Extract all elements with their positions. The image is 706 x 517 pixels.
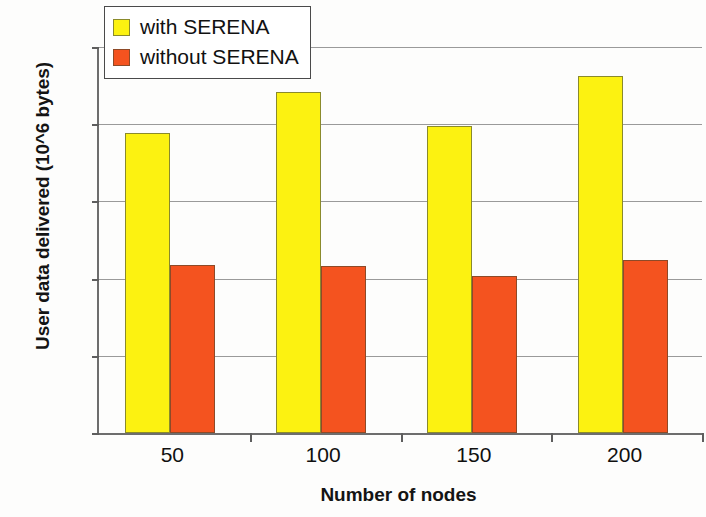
bar — [125, 133, 170, 433]
y-tick-mark — [92, 356, 99, 358]
legend-item: with SERENA — [113, 12, 299, 42]
bar — [276, 92, 321, 433]
y-tick-mark — [92, 433, 99, 435]
bar — [427, 126, 472, 433]
x-tick-label: 100 — [263, 443, 383, 467]
x-tick-mark — [250, 433, 252, 442]
legend-label: without SERENA — [140, 45, 299, 69]
y-tick-mark — [92, 47, 99, 49]
bar — [472, 276, 517, 433]
legend-item: without SERENA — [113, 42, 299, 72]
y-axis-title: User data delivered (10^6 bytes) — [32, 56, 54, 356]
x-tick-label: 150 — [414, 443, 534, 467]
x-axis-title: Number of nodes — [97, 484, 700, 506]
x-tick-mark — [702, 433, 704, 442]
bar — [623, 260, 668, 433]
legend-swatch — [113, 19, 130, 36]
x-tick-mark — [551, 433, 553, 442]
y-tick-mark — [92, 279, 99, 281]
bar — [170, 265, 215, 433]
bar — [578, 76, 623, 433]
x-tick-label: 200 — [565, 443, 685, 467]
bar-chart-figure: User data delivered (10^6 bytes) 00,511,… — [0, 0, 706, 517]
bar — [321, 266, 366, 433]
plot-area — [97, 47, 702, 435]
x-tick-mark — [401, 433, 403, 442]
y-tick-mark — [92, 124, 99, 126]
x-tick-label: 50 — [112, 443, 232, 467]
chart-legend: with SERENAwithout SERENA — [104, 6, 311, 79]
legend-swatch — [113, 49, 130, 66]
legend-label: with SERENA — [140, 15, 270, 39]
y-tick-mark — [92, 201, 99, 203]
